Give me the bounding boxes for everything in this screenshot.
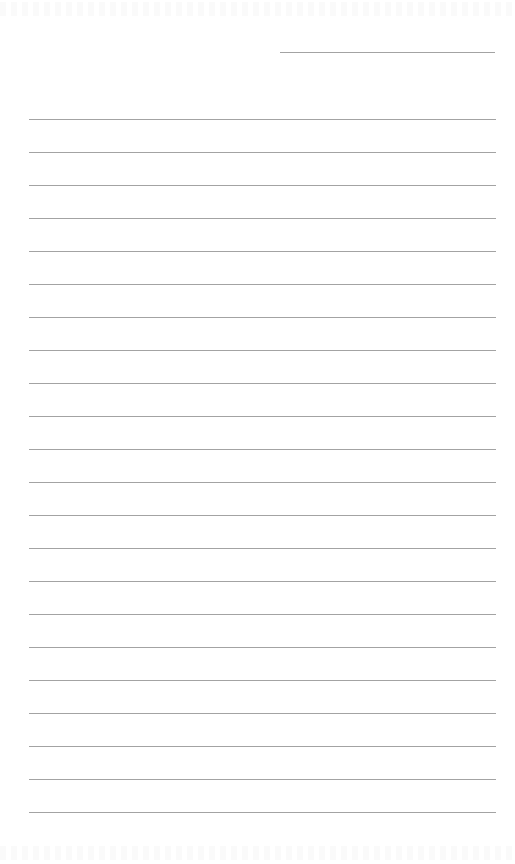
ruled-line bbox=[29, 548, 496, 549]
ruled-line bbox=[29, 185, 496, 186]
ruled-line bbox=[29, 152, 496, 153]
scan-bleed-top bbox=[0, 2, 515, 16]
ruled-line bbox=[29, 581, 496, 582]
ruled-line bbox=[29, 746, 496, 747]
ruled-line bbox=[29, 680, 496, 681]
ruled-line bbox=[29, 515, 496, 516]
ruled-line bbox=[29, 779, 496, 780]
ruled-line bbox=[29, 251, 496, 252]
ruled-line bbox=[29, 482, 496, 483]
ruled-line bbox=[29, 350, 496, 351]
ruled-line bbox=[29, 812, 496, 813]
ruled-line bbox=[29, 449, 496, 450]
ruled-line bbox=[29, 383, 496, 384]
date-line bbox=[280, 52, 495, 53]
ruled-line bbox=[29, 218, 496, 219]
ruled-line bbox=[29, 713, 496, 714]
ruled-line bbox=[29, 119, 496, 120]
scan-bleed-bottom bbox=[0, 846, 515, 860]
ruled-line bbox=[29, 647, 496, 648]
ruled-line bbox=[29, 317, 496, 318]
ruled-line bbox=[29, 416, 496, 417]
ruled-line bbox=[29, 284, 496, 285]
ruled-line bbox=[29, 614, 496, 615]
